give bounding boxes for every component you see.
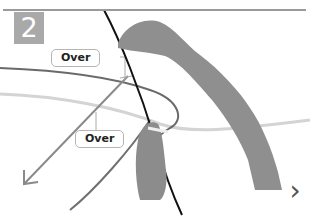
callout-over-upper: Over bbox=[51, 49, 100, 67]
instruction-illustration: 2 Over Over › bbox=[0, 0, 322, 223]
top-divider bbox=[3, 9, 306, 11]
chevron-right-icon: › bbox=[289, 174, 300, 207]
step-number-badge: 2 bbox=[14, 12, 44, 44]
callout-over-lower: Over bbox=[75, 130, 124, 148]
knot-illustration bbox=[0, 0, 322, 223]
next-step-button[interactable]: › bbox=[284, 178, 306, 204]
